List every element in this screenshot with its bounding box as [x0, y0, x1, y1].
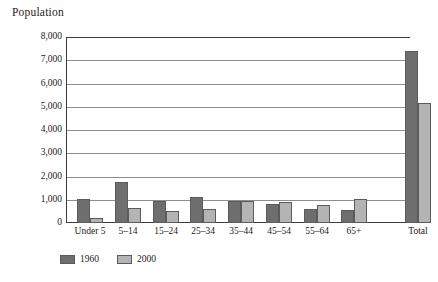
x-axis-tick-label: 5–14	[119, 226, 138, 237]
bar-2000-5–14	[128, 208, 141, 223]
bar-2000-25–34	[203, 209, 216, 223]
legend-label: 1960	[80, 254, 99, 264]
y-axis-tick-label: 6,000	[6, 79, 62, 89]
y-axis-tick-label: 1,000	[6, 195, 62, 205]
bar-1960-45–54	[266, 204, 279, 223]
x-axis-tick-label: 45–54	[267, 226, 291, 237]
bar-1960-55–64	[304, 209, 317, 223]
bars-layer	[66, 37, 410, 223]
bar-1960-15–24	[153, 201, 166, 223]
legend-item-2000: 2000	[117, 254, 156, 264]
dark-gray-swatch	[60, 255, 75, 264]
bar-1960-5–14	[115, 182, 128, 223]
bar-1960-25–34	[190, 197, 203, 223]
y-axis-tick-label: 3,000	[6, 148, 62, 158]
legend-item-1960: 1960	[60, 254, 99, 264]
y-axis-tick-label: 8,000	[6, 32, 62, 42]
bar-1960-65+	[341, 210, 354, 223]
y-axis-tick-label: 0	[6, 218, 62, 228]
x-axis-tick-label: 65+	[347, 226, 362, 237]
x-axis-tick-label: Total	[408, 226, 427, 237]
bar-2000-55–64	[317, 205, 330, 223]
x-axis-tick-label: 55–64	[305, 226, 329, 237]
bar-2000-15–24	[166, 211, 179, 223]
bar-1960-35–44	[228, 201, 241, 223]
legend-label: 2000	[137, 254, 156, 264]
y-axis-tick-label: 7,000	[6, 55, 62, 65]
x-axis-tick-label: 25–34	[191, 226, 215, 237]
light-gray-swatch	[117, 255, 132, 264]
y-axis-tick-label: 5,000	[6, 102, 62, 112]
y-axis-tick-label: 4,000	[6, 125, 62, 135]
x-axis-tick-label: 35–44	[229, 226, 253, 237]
bar-1960-under-5	[77, 199, 90, 223]
x-axis-tick-label: Under 5	[75, 226, 106, 237]
bar-2000-45–54	[279, 202, 292, 223]
bar-2000-65+	[354, 199, 367, 223]
x-axis-tick-label: 15–24	[154, 226, 178, 237]
population-bar-chart-figure: Population 01,0002,0003,0004,0005,0006,0…	[0, 0, 438, 282]
bar-2000-total	[418, 103, 431, 223]
x-axis-tick-labels: Under 55–1415–2425–3435–4445–5455–6465+T…	[66, 226, 410, 242]
y-axis-tick-labels: 01,0002,0003,0004,0005,0006,0007,0008,00…	[0, 0, 62, 282]
bar-2000-35–44	[241, 201, 254, 223]
y-axis-tick-label: 2,000	[6, 172, 62, 182]
chart-legend: 19602000	[60, 252, 156, 266]
bar-2000-under-5	[90, 218, 103, 223]
bar-1960-total	[405, 51, 418, 223]
